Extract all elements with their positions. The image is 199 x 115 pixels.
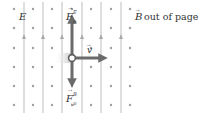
field-direction-arrow-icon xyxy=(22,34,26,39)
field-direction-arrow-icon xyxy=(80,34,84,39)
b-field-dot-icon xyxy=(13,47,15,49)
b-field-dot-icon xyxy=(90,27,92,29)
b-field-dot-icon xyxy=(110,66,112,68)
svg-text:B: B xyxy=(72,91,77,97)
b-field-dot-icon xyxy=(129,104,131,106)
b-field-dot-icon xyxy=(32,47,34,49)
b-field-dot-icon xyxy=(90,104,92,106)
electric-force-label: → F E p xyxy=(65,5,77,26)
b-field-dot-icon xyxy=(129,27,131,29)
b-field-dot-icon xyxy=(129,47,131,49)
field-direction-arrow-icon xyxy=(99,34,103,39)
b-field-dot-icon xyxy=(51,47,53,49)
b-field-dot-icon xyxy=(129,66,131,68)
b-field-dot-icon xyxy=(110,104,112,106)
field-direction-arrow-icon xyxy=(119,34,123,39)
b-field-dot-icon xyxy=(13,66,15,68)
svg-text:p: p xyxy=(73,18,77,25)
b-field-dot-icon xyxy=(51,104,53,106)
b-field-dot-icon xyxy=(13,104,15,106)
b-field-dot-icon xyxy=(32,8,34,10)
b-field-dot-icon xyxy=(51,85,53,87)
b-field-dot-icon xyxy=(32,66,34,68)
b-field-dot-icon xyxy=(110,85,112,87)
field-direction-arrow-icon xyxy=(41,34,45,39)
velocity-label: → v xyxy=(87,42,93,56)
b-field-dot-icon xyxy=(32,85,34,87)
b-field-dot-icon xyxy=(13,8,15,10)
svg-text:p: p xyxy=(73,100,77,107)
particle-motion-trail xyxy=(54,53,70,63)
b-field-dot-icon xyxy=(110,47,112,49)
physics-diagram: E → F E p → v → F B p → B out of page xyxy=(0,0,199,115)
field-direction-arrow-icon xyxy=(60,34,64,39)
magnetic-field-label: → B out of page xyxy=(134,7,199,23)
b-field-dot-icon xyxy=(51,66,53,68)
magnetic-force-label: → F B p xyxy=(65,87,77,108)
svg-text:→: → xyxy=(68,5,72,11)
b-field-dot-icon xyxy=(129,8,131,10)
b-field-dot-icon xyxy=(110,8,112,10)
b-field-dot-icon xyxy=(32,104,34,106)
svg-text:E: E xyxy=(72,9,77,15)
b-field-dot-icon xyxy=(129,85,131,87)
b-field-dot-icon xyxy=(51,27,53,29)
svg-text:→: → xyxy=(68,87,72,93)
b-field-dot-icon xyxy=(90,85,92,87)
b-field-dot-icon xyxy=(51,8,53,10)
svg-text:B: B xyxy=(134,11,142,22)
b-field-dot-icon xyxy=(110,27,112,29)
b-field-dot-icon xyxy=(32,27,34,29)
electric-field-label: E xyxy=(18,11,27,22)
b-field-dot-icon xyxy=(90,66,92,68)
b-field-dot-icon xyxy=(13,27,15,29)
b-field-dot-icon xyxy=(90,8,92,10)
svg-text:v: v xyxy=(87,45,92,55)
svg-text:out of page: out of page xyxy=(144,11,199,22)
particle-icon xyxy=(69,55,76,62)
b-field-dot-icon xyxy=(13,85,15,87)
